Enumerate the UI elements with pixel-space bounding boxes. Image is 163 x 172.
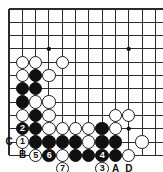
stone-white[interactable] (42, 109, 55, 122)
stone-move-7[interactable]: 7 (56, 162, 69, 172)
stone-move-number: 3 (100, 164, 105, 172)
stone-move-number: 7 (60, 164, 65, 172)
stone-white[interactable] (135, 135, 148, 148)
stone-white[interactable] (16, 109, 29, 122)
stone-black[interactable] (95, 122, 108, 135)
stone-white[interactable] (42, 95, 55, 108)
stone-white[interactable] (56, 56, 69, 69)
stone-white[interactable] (29, 95, 42, 108)
stone-white[interactable] (16, 56, 29, 69)
stone-move-3[interactable]: 3 (95, 162, 108, 172)
stone-black[interactable] (95, 135, 108, 148)
stone-move-number: 6 (47, 150, 52, 159)
stone-move-4[interactable]: 4 (95, 149, 108, 162)
point-marker-b[interactable]: B (19, 150, 26, 160)
stone-black[interactable] (109, 149, 122, 162)
hoshi-point (47, 47, 51, 51)
stone-white[interactable] (56, 149, 69, 162)
stone-black[interactable] (42, 135, 55, 148)
go-diagram: 2156473 CBAD (0, 0, 163, 172)
stone-white[interactable] (16, 69, 29, 82)
stone-move-6[interactable]: 6 (42, 149, 55, 162)
stone-black[interactable] (29, 135, 42, 148)
stone-white[interactable] (42, 69, 55, 82)
stone-black[interactable] (109, 135, 122, 148)
stone-move-1[interactable]: 1 (16, 135, 29, 148)
stone-white[interactable] (29, 56, 42, 69)
stone-black[interactable] (69, 135, 82, 148)
stone-white[interactable] (42, 122, 55, 135)
stone-black[interactable] (69, 149, 82, 162)
stone-white[interactable] (82, 135, 95, 148)
point-marker-a[interactable]: A (112, 164, 119, 172)
stone-white[interactable] (109, 109, 122, 122)
stone-move-number: 1 (20, 137, 25, 146)
stone-move-number: 2 (20, 124, 25, 133)
stone-move-number: 4 (100, 150, 105, 159)
stone-move-number: 5 (33, 150, 38, 159)
stone-black[interactable] (16, 95, 29, 108)
point-marker-c[interactable]: C (6, 137, 13, 147)
hoshi-point (127, 127, 131, 131)
point-marker-d[interactable]: D (125, 164, 132, 172)
stone-black[interactable] (56, 135, 69, 148)
hoshi-point (127, 47, 131, 51)
